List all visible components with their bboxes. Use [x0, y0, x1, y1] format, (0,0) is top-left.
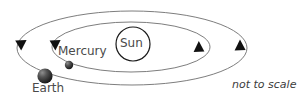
earth-label: Earth	[32, 82, 64, 94]
mercury-orbit-arrow-right-icon	[194, 41, 205, 52]
earth-orbit-arrow-right-icon	[235, 40, 246, 51]
sun-label: Sun	[120, 37, 143, 49]
mercury-body	[65, 61, 73, 69]
not-to-scale-note: not to scale	[232, 79, 296, 90]
orbit-diagram: Sun Mercury Earth not to scale	[0, 0, 307, 99]
mercury-label: Mercury	[58, 45, 107, 57]
